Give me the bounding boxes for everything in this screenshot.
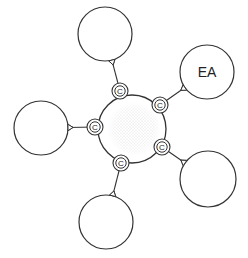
node-circle[interactable] — [79, 195, 133, 249]
connector-c-icon: C — [118, 159, 124, 168]
connector-c-icon: C — [157, 101, 163, 110]
node-circle[interactable] — [14, 101, 68, 155]
connector-c-icon: C — [159, 143, 165, 152]
connector-c-icon: C — [117, 87, 123, 96]
arrow-triangle-icon — [68, 124, 73, 130]
node-circle[interactable] — [180, 151, 236, 207]
hub-spoke-diagram: EA CCCCC — [0, 0, 248, 258]
connector-c-icon: C — [92, 123, 98, 132]
node-left[interactable] — [14, 101, 73, 155]
node-lower-right[interactable] — [180, 151, 236, 207]
node-top[interactable] — [78, 7, 132, 65]
node-upper-right[interactable]: EA — [180, 45, 234, 99]
node-bottom[interactable] — [79, 191, 133, 249]
hub-stipple-fade — [107, 102, 161, 156]
node-circle[interactable] — [78, 7, 132, 61]
node-label: EA — [198, 64, 217, 80]
arrow-triangle-icon — [110, 191, 116, 197]
